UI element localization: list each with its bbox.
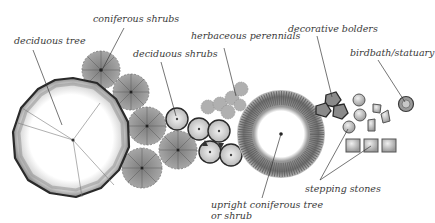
label-deciduous-shrubs: deciduous shrubs [133, 49, 218, 59]
stepping-stone-icon [354, 109, 366, 121]
deciduous-tree-icon [13, 78, 129, 197]
perennial-icon [221, 105, 235, 119]
stepping-stone-icon [346, 139, 360, 152]
label-stepping-stones: stepping stones [305, 184, 381, 194]
coniferous-shrub-icon [128, 107, 166, 145]
boulder-icon [333, 104, 348, 119]
perennial-icon [201, 100, 215, 114]
perennial-icon [234, 99, 246, 111]
herbaceous-perennials-group [201, 82, 248, 119]
stepping-stone-icon [368, 119, 375, 131]
label-deciduous-tree: deciduous tree [14, 36, 86, 46]
stepping-stone-icon [382, 139, 396, 152]
stepping-stone-icon [343, 121, 355, 133]
stepping-stone-icon [381, 110, 390, 123]
perennial-icon [234, 82, 248, 96]
label-herbaceous-perennials: herbaceous perennials [191, 31, 300, 41]
stepping-stone-icon [353, 94, 365, 106]
coniferous-shrub-icon [122, 148, 162, 188]
label-coniferous-shrubs: coniferous shrubs [93, 14, 179, 24]
label-upright-coniferous-line2: or shrub [211, 211, 252, 221]
label-decorative-bolders: decorative bolders [288, 24, 378, 34]
label-birdbath-statuary: birdbath/statuary [350, 48, 435, 58]
stepping-stone-icon [373, 104, 381, 113]
label-upright-coniferous-line1: upright coniferous tree [211, 200, 323, 210]
birdbath-icon [399, 97, 414, 112]
stepping-stones-group [343, 94, 396, 152]
stepping-stone-icon [364, 139, 378, 152]
